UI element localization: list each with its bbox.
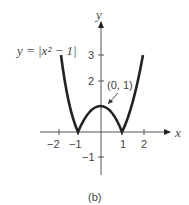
- annotation-arrow: [108, 93, 118, 104]
- figure-caption: (b): [88, 192, 101, 203]
- x-axis-label: x: [175, 126, 181, 139]
- equation-label: y = |x² − 1|: [17, 44, 77, 57]
- graph: [0, 0, 189, 205]
- x-tick-label: −1: [69, 139, 82, 150]
- point-annotation: (0, 1): [107, 80, 133, 91]
- x-tick-label: −2: [47, 139, 60, 150]
- x-tick-label: 2: [141, 139, 147, 150]
- x-tick-label: 1: [120, 139, 126, 150]
- y-tick-label: 2: [88, 76, 94, 87]
- y-tick-label: 3: [88, 50, 94, 61]
- y-axis-label: y: [96, 8, 102, 21]
- curve-abs-x2-minus-1: [61, 55, 143, 132]
- y-tick-label: −1: [82, 152, 95, 163]
